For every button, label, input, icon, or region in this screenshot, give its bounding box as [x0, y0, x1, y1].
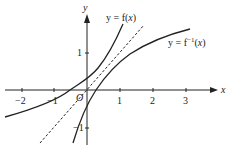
tick-label-x-minus2: −2: [15, 96, 26, 106]
tick-label-x-2: 2: [150, 96, 155, 106]
tick-label-y-1: 1: [77, 48, 82, 58]
x-axis-label: x: [221, 85, 225, 95]
line-y-equals-x: [40, 25, 144, 143]
f-curve-label: y = f(x): [106, 13, 136, 23]
f-inverse-curve-label: y = f−1(x): [168, 37, 206, 48]
tick-label-y-minus1: −1: [73, 123, 84, 133]
origin-label: O: [76, 93, 83, 103]
tick-label-x-3: 3: [183, 96, 188, 106]
x-axis-arrow-icon: [210, 87, 218, 93]
tick-label-x-1: 1: [117, 96, 122, 106]
y-axis-arrow-icon: [84, 14, 90, 23]
tick-label-x-minus1: −1: [47, 96, 58, 106]
y-axis-label: y: [83, 3, 87, 13]
